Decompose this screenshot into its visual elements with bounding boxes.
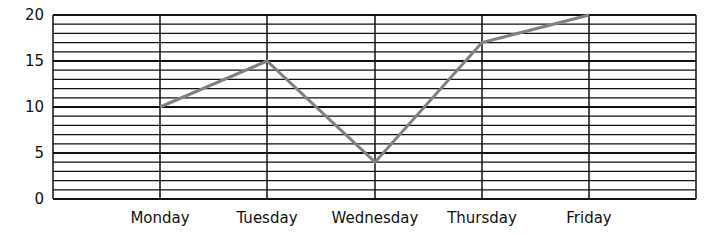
line-chart: 05101520 MondayTuesdayWednesdayThursdayF… — [0, 0, 724, 237]
y-tick-label: 20 — [25, 6, 44, 24]
x-tick-label: Wednesday — [332, 209, 419, 227]
grid — [53, 15, 696, 199]
y-tick-label: 15 — [25, 52, 44, 70]
y-axis-ticks: 05101520 — [25, 6, 44, 208]
x-axis-ticks: MondayTuesdayWednesdayThursdayFriday — [130, 209, 611, 227]
x-tick-label: Thursday — [446, 209, 517, 227]
x-tick-label: Monday — [130, 209, 189, 227]
y-tick-label: 0 — [34, 190, 44, 208]
y-tick-label: 10 — [25, 98, 44, 116]
y-tick-label: 5 — [34, 144, 44, 162]
x-tick-label: Tuesday — [235, 209, 297, 227]
x-tick-label: Friday — [566, 209, 612, 227]
